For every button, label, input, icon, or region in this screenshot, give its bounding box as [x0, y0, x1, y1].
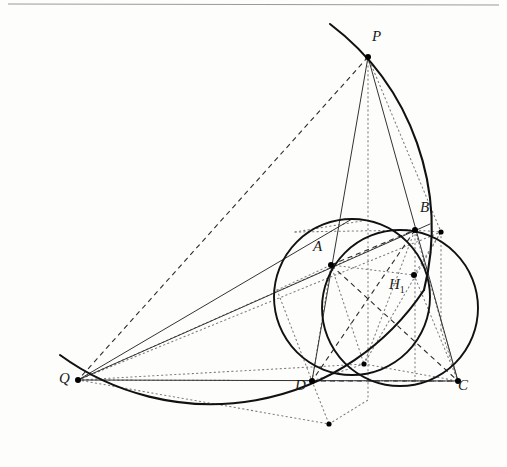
- dotted-h1-to-c: [414, 275, 458, 381]
- dot-marker-center[interactable]: [361, 361, 366, 366]
- figure-page: P B A H1 D C Q: [0, 0, 507, 467]
- dot-B[interactable]: [412, 227, 418, 233]
- line-a-to-q-lower: [78, 219, 352, 380]
- dot-Q[interactable]: [75, 377, 81, 383]
- dot-H1[interactable]: [411, 272, 417, 278]
- dot-D[interactable]: [309, 378, 315, 384]
- dashed-p-to-q: [78, 57, 368, 380]
- dotted-d-vertical: [312, 381, 329, 424]
- point-label-Q: Q: [59, 371, 70, 386]
- circle-left: [274, 219, 430, 375]
- point-label-H1-base: H: [389, 276, 400, 292]
- point-label-H1-sub: 1: [400, 284, 405, 295]
- large-arc-pq: [330, 24, 432, 290]
- point-label-H1: H1: [389, 277, 405, 295]
- point-label-C: C: [458, 378, 468, 393]
- point-label-P: P: [372, 29, 381, 44]
- header-rule: [8, 4, 499, 5]
- line-p-to-c: [368, 57, 458, 381]
- dotted-a-to-h1: [331, 265, 414, 275]
- point-label-A: A: [313, 239, 322, 254]
- dot-A[interactable]: [328, 262, 334, 268]
- line-q-to-a-extended: [78, 224, 430, 380]
- line-q-to-c-base: [78, 380, 458, 381]
- dot-P[interactable]: [365, 54, 371, 60]
- dotted-left-chord: [277, 265, 331, 290]
- point-label-D: D: [295, 378, 306, 393]
- dot-marker-bottom[interactable]: [326, 421, 331, 426]
- dot-marker-right[interactable]: [438, 229, 443, 234]
- dotted-m3-vertical: [329, 400, 368, 424]
- point-label-B: B: [420, 200, 429, 215]
- dotted-construction-group: [78, 57, 458, 424]
- geometry-figure: [0, 0, 507, 467]
